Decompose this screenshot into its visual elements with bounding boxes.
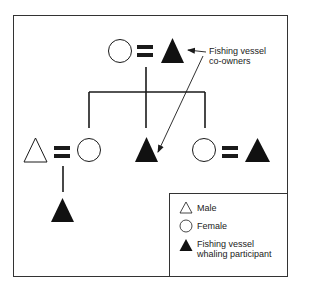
filled-triangle-grandchild: [51, 198, 74, 222]
legend-label-whaling: Fishing vessel whaling participant: [197, 240, 272, 259]
legend-label-whaling-line1: Fishing vessel: [197, 240, 272, 249]
annotation-label: Fishing vessel co-owners: [209, 47, 266, 66]
legend-box: [170, 194, 288, 277]
annotation-line1: Fishing vessel: [209, 47, 266, 56]
female-symbol-parent: [109, 40, 132, 63]
open-triangle-male-spouse: [24, 138, 47, 162]
arrow-to-child2: [158, 56, 203, 152]
filled-triangle-parent-male: [161, 38, 184, 63]
filled-triangle-child2: [135, 137, 158, 162]
arrow-to-parent-male: [188, 50, 206, 52]
female-symbol-child3: [193, 139, 216, 162]
legend-label-female: Female: [197, 222, 227, 231]
legend-label-whaling-line2: whaling participant: [197, 250, 272, 259]
marriage-equals-top: [137, 45, 153, 57]
female-symbol-child1: [78, 139, 101, 162]
legend-label-male: Male: [197, 204, 217, 213]
annotation-line2: co-owners: [209, 57, 266, 66]
filled-triangle-child3-spouse: [245, 138, 270, 162]
marriage-equals-right: [222, 146, 238, 158]
marriage-equals-left: [54, 146, 70, 158]
